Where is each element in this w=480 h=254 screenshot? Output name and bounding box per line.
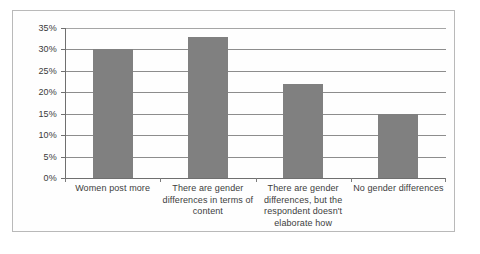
y-axis-tick-label: 10%	[38, 130, 57, 140]
x-axis-category-label: Women post more	[65, 183, 160, 195]
category-label-line: differences, but the	[256, 195, 351, 207]
y-axis-tick-label: 20%	[38, 87, 57, 97]
category-label-line: content	[160, 206, 255, 218]
x-axis-category-label: There are genderdifferences, but theresp…	[256, 183, 351, 229]
gridline	[65, 28, 446, 29]
x-axis-category-label: There are genderdifferences in terms ofc…	[160, 183, 255, 218]
chart-figure: 0%5%10%15%20%25%30%35% Women post moreTh…	[12, 10, 455, 232]
category-label-line: respondent doesn't	[256, 206, 351, 218]
y-axis-tick	[61, 135, 65, 136]
category-label-line: Women post more	[65, 183, 160, 195]
x-axis-tick	[65, 178, 66, 182]
x-axis-tick	[160, 178, 161, 182]
category-label-line: differences in terms of	[160, 195, 255, 207]
y-axis-tick-label: 15%	[38, 109, 57, 119]
category-label-line: elaborate how	[256, 218, 351, 230]
y-axis-tick-label: 0%	[44, 173, 57, 183]
y-axis-tick-label: 25%	[38, 66, 57, 76]
category-label-line: There are gender	[256, 183, 351, 195]
y-axis-tick	[61, 92, 65, 93]
y-axis-tick-label: 35%	[38, 23, 57, 33]
y-axis-tick	[61, 114, 65, 115]
category-label-line: There are gender	[160, 183, 255, 195]
y-axis-tick	[61, 49, 65, 50]
category-label-line: No gender differences	[351, 183, 446, 195]
bar	[378, 114, 418, 178]
x-axis-tick	[445, 178, 446, 182]
bar	[188, 37, 228, 178]
x-axis-tick	[351, 178, 352, 182]
y-axis-tick	[61, 71, 65, 72]
y-axis-tick	[61, 28, 65, 29]
x-axis-tick	[256, 178, 257, 182]
x-axis-category-label: No gender differences	[351, 183, 446, 195]
y-axis-tick-label: 30%	[38, 44, 57, 54]
bar	[283, 84, 323, 178]
bar	[93, 49, 133, 178]
y-axis-tick-label: 5%	[44, 152, 57, 162]
y-axis-line	[65, 28, 66, 178]
plot-area: 0%5%10%15%20%25%30%35%	[65, 28, 446, 178]
y-axis-tick	[61, 157, 65, 158]
